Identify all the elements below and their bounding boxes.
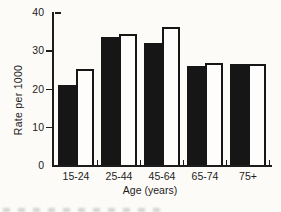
bar-group-65-74	[187, 63, 223, 165]
bar-filled-black-15-24	[58, 85, 76, 165]
bar-group-15-24	[58, 69, 94, 165]
y-axis-tick-label: 10	[14, 121, 44, 133]
plot-area: 01020304015-2425-4445-6465-7475+	[52, 12, 272, 167]
y-axis-tick	[55, 12, 61, 14]
y-axis-tick	[46, 89, 52, 91]
bar-filled-black-45-64	[144, 43, 162, 165]
bar-open-white-45-64	[162, 27, 180, 165]
bar-group-25-44	[101, 34, 137, 165]
y-axis-tick-label: 40	[14, 6, 44, 18]
bar-group-75+	[230, 64, 266, 165]
bar-filled-black-75+	[230, 64, 248, 165]
bar-open-white-75+	[248, 64, 266, 165]
y-axis-tick	[46, 50, 52, 52]
bar-open-white-25-44	[119, 34, 137, 165]
x-axis-label: Age (years)	[52, 184, 248, 196]
bar-open-white-65-74	[205, 63, 223, 165]
bar-open-white-15-24	[76, 69, 94, 165]
bar-filled-black-25-44	[101, 37, 119, 165]
bar-groups	[58, 27, 266, 165]
x-axis-tick	[269, 160, 271, 165]
bar-filled-black-65-74	[187, 66, 205, 165]
bar-group-45-64	[144, 27, 180, 165]
y-axis-tick-label: 0	[14, 159, 44, 171]
y-axis-tick-label: 30	[14, 44, 44, 56]
scan-artifact-cropped-caption	[3, 208, 163, 212]
x-axis-category-label: 75+	[218, 170, 278, 182]
y-axis-tick	[46, 127, 52, 129]
y-axis-tick-label: 20	[14, 83, 44, 95]
grouped-bar-chart-figure: Rate per 1000 01020304015-2425-4445-6465…	[0, 0, 281, 212]
